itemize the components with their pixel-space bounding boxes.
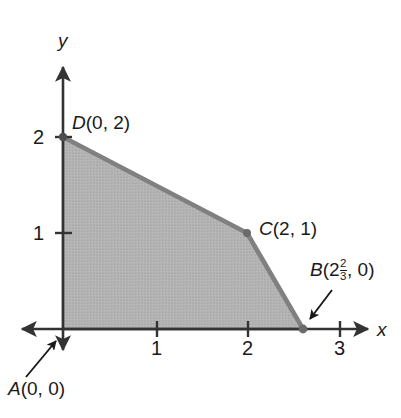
coordinate-plane-figure: y x 1 2 3 1 2 D(0, 2) C(2, 1) B(223, 0) …	[0, 0, 401, 418]
fraction-denominator: 3	[340, 271, 347, 283]
point-label-C-y: 1	[300, 218, 311, 239]
y-tick-label-1: 1	[33, 223, 44, 243]
point-label-B-fraction: 23	[340, 258, 347, 282]
point-name-D: D	[72, 112, 86, 133]
point-label-D-close: )	[124, 112, 130, 133]
leader-line-A	[26, 341, 56, 377]
point-label-D-y: 2	[113, 112, 124, 133]
point-label-D-x: 0	[92, 112, 103, 133]
point-label-A-close: )	[59, 378, 65, 399]
y-axis-label: y	[58, 31, 68, 50]
point-label-B-comma: ,	[347, 259, 358, 280]
y-tick-label-2: 2	[33, 127, 44, 147]
x-axis-label: x	[377, 320, 387, 339]
x-tick-label-1: 1	[151, 338, 162, 358]
point-label-A-x: 0	[27, 378, 38, 399]
x-tick-label-3: 3	[334, 338, 345, 358]
point-label-D-comma: ,	[103, 112, 114, 133]
point-label-D: D(0, 2)	[72, 113, 130, 132]
point-label-B: B(223, 0)	[310, 258, 374, 282]
vertex-marker-B	[299, 325, 308, 334]
x-tick-label-2: 2	[242, 338, 253, 358]
point-label-A: A(0, 0)	[8, 379, 65, 398]
point-name-C: C	[259, 218, 273, 239]
point-label-C-comma: ,	[290, 218, 301, 239]
vertex-marker-C	[243, 229, 251, 237]
point-label-C-x: 2	[279, 218, 290, 239]
point-label-B-y: 0	[358, 259, 369, 280]
point-name-B: B	[310, 259, 323, 280]
point-label-C: C(2, 1)	[259, 219, 317, 238]
point-label-C-close: )	[311, 218, 317, 239]
point-label-B-x: 2	[329, 259, 340, 280]
point-name-A: A	[8, 378, 21, 399]
fraction-numerator: 2	[340, 258, 347, 271]
vertex-marker-D	[59, 133, 67, 141]
point-label-A-comma: ,	[38, 378, 49, 399]
point-label-A-y: 0	[48, 378, 59, 399]
point-label-B-close: )	[368, 259, 374, 280]
leader-line-B	[310, 290, 332, 319]
